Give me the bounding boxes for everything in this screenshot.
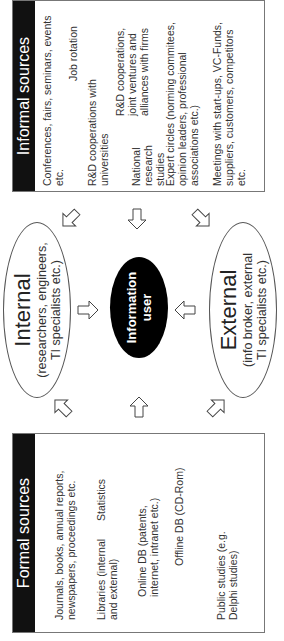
information-user-ellipse: Information user [110,257,168,358]
formal-item-offline-db: Offline DB (CD-Rom) [173,468,185,566]
arrow-informal-to-center-icon [125,207,149,231]
informal-item-national-studies: Nationalresearchstudies [130,145,166,186]
formal-item-online-db: Online DB (patents,internet, intranet et… [136,498,160,597]
external-desc-1: (info broker, external [241,253,255,367]
arrow-formal-to-internal-icon [45,390,79,424]
informal-item-job-rotation: Job rotation [67,26,79,81]
external-desc-2: TI specialists etc.) [255,260,269,360]
informal-item-meetings: Meetings with start-ups, VC-Funds,suppli… [211,22,247,186]
external-ellipse: External (info broker, external TI speci… [209,222,277,398]
informal-sources-box: Informal sources Conferences, fairs, sem… [12,0,265,192]
arrow-external-to-center-icon [173,298,197,322]
informal-item-rd-firms: R&D cooperations,joint ventures andallia… [114,28,150,116]
arrow-formal-to-center-icon [127,395,151,419]
arrow-formal-to-external-icon [200,390,234,424]
formal-sources-title: Formal sources [13,434,35,632]
informal-item-conferences: Conferences, fairs, seminars, eventsetc. [41,16,65,186]
formal-sources-box: Formal sources Journals, books, annual r… [12,433,265,633]
arrow-informal-to-internal-icon [53,202,87,236]
informal-item-rd-universities: R&D cooperations withuniversities [86,79,110,186]
informal-item-expert-circles: Expert circles (norming commitees,opinio… [164,22,200,186]
informal-sources-title: Informal sources [13,1,35,191]
formal-item-journals: Journals, books, annual reports,newspape… [53,471,77,620]
arrow-informal-to-external-icon [185,202,219,236]
arrow-internal-to-center-icon [76,298,100,322]
formal-item-statistics: Statistics [95,479,107,521]
internal-ellipse: Internal (researchers, engineers, TI spe… [3,222,71,398]
internal-desc-1: (researchers, engineers, [35,242,49,377]
diagram-canvas: Formal sources Journals, books, annual r… [0,0,284,641]
center-label-1: Information [124,272,139,344]
formal-item-public-studies: Public studies (e.g.Delphi studies) [215,531,239,620]
internal-title: Internal [11,273,35,346]
internal-desc-2: TI specialists etc.) [49,260,63,360]
center-label-2: user [139,294,154,321]
formal-item-libraries: Libraries (internaland external) [95,539,119,620]
external-title: External [217,270,241,351]
